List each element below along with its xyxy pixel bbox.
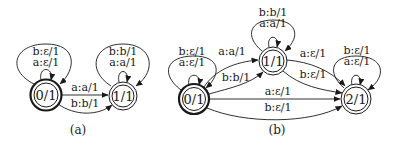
label-b1-self-inner: a:a/1	[259, 17, 287, 30]
state-b2-label: 2/1	[346, 92, 367, 107]
label-b0-b2-a: a:ε/1	[265, 85, 292, 98]
state-b1: 1/1	[259, 47, 287, 75]
state-a1-label: 1/1	[113, 89, 134, 104]
transducer-figure: b:ε/1 a:ε/1 b:b/1 a:a/1 a:a/1 b:b/1 0/1 …	[0, 0, 400, 148]
state-a1: 1/1	[109, 82, 137, 110]
caption-b: (b)	[268, 123, 285, 137]
label-a1-self-inner: a:a/1	[109, 56, 137, 69]
label-a0-a1-b: b:b/1	[71, 97, 100, 110]
state-b1-label: 1/1	[263, 54, 284, 69]
label-b1-b2-b: b:ε/1	[299, 68, 326, 81]
state-b0-label: 0/1	[184, 92, 205, 107]
label-b0-b1-b: b:b/1	[222, 71, 251, 84]
state-a0: 0/1	[31, 80, 62, 111]
caption-a: (a)	[70, 123, 87, 137]
state-b0: 0/1	[179, 84, 209, 114]
label-a0-self-inner: a:ε/1	[33, 56, 60, 69]
label-b1-b2-a: a:ε/1	[300, 47, 327, 60]
label-b2-self-inner: a:ε/1	[344, 55, 371, 68]
label-b0-self-inner: a:ε/1	[179, 56, 206, 69]
label-b0-b1-a: a:a/1	[218, 45, 246, 58]
edge-b1-self-inner	[269, 37, 278, 47]
state-a0-label: 0/1	[36, 88, 57, 103]
panel-a: b:ε/1 a:ε/1 b:b/1 a:a/1 a:a/1 b:b/1 0/1 …	[17, 44, 149, 137]
panel-b: b:ε/1 a:ε/1 b:b/1 a:a/1 b:ε/1 a:ε/1 a:a/…	[168, 6, 380, 137]
state-b2: 2/1	[341, 84, 371, 114]
edge-a1-self-inner	[119, 72, 128, 83]
label-a0-a1-a: a:a/1	[71, 81, 99, 94]
label-b0-b2-b: b:ε/1	[264, 101, 291, 114]
